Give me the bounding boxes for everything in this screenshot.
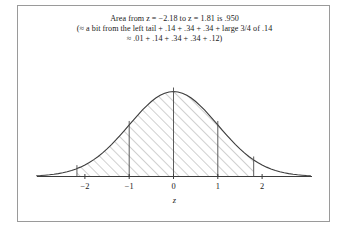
figure-panel: Area from z = −2.18 to z = 1.81 is .950 … <box>17 5 330 222</box>
tick-label--1: −1 <box>117 182 141 191</box>
tick-label-1: 1 <box>206 182 230 191</box>
tick-label-2: 2 <box>250 182 274 191</box>
tick-label--2: −2 <box>73 182 97 191</box>
tick-label-0: 0 <box>162 182 186 191</box>
x-axis-label: z <box>18 196 331 205</box>
